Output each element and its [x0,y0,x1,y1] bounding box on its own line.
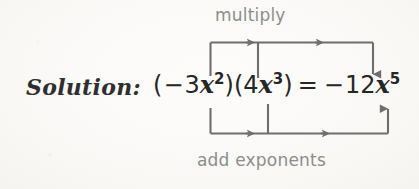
coefficient-2: 4 [243,71,258,99]
result-coefficient: 12 [345,71,376,99]
left-paren-1: ( [153,71,162,99]
solution-label: Solution: [26,74,141,100]
right-paren-2: ) [283,71,292,99]
exponent-1: 2 [214,70,224,88]
result-variable: x [375,70,389,99]
left-paren-2: ( [234,71,243,99]
add-exponents-label: add exponents [197,150,326,170]
right-paren-1: ) [225,71,234,99]
result-exponent: 5 [390,70,400,88]
add-exponents-arrow-path [211,104,389,134]
equals-sign: = [293,71,323,99]
minus-sign-1: − [162,71,184,99]
equation: (−3x2)(4x3)=−12x5 [153,73,400,97]
coefficient-1: 3 [184,71,199,99]
variable-2: x [259,70,273,99]
multiply-label: multiply [215,5,286,25]
figure-canvas: multiply add exponents Solution: (−3x2)(… [0,0,419,189]
variable-1: x [200,70,214,99]
exponent-2: 3 [273,70,283,88]
minus-sign-2: − [323,71,345,99]
